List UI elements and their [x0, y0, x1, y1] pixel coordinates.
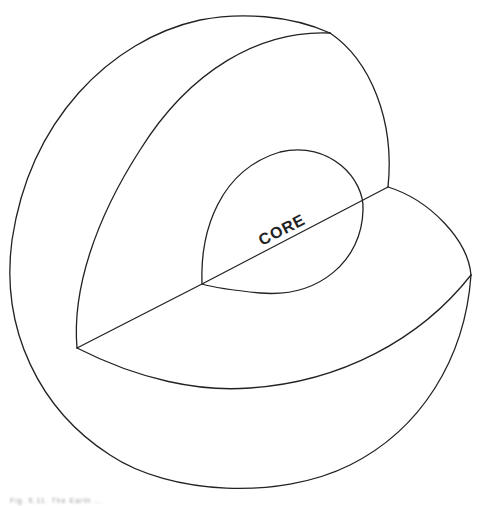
outer-arc-lower-right — [388, 187, 471, 275]
cut-radius-line — [77, 187, 388, 348]
outer-sphere-outline — [10, 16, 471, 489]
figure-caption: Fig. 5.11. The Earth ... — [10, 497, 103, 504]
mantle-cut-edge — [76, 33, 330, 348]
earth-cutaway-diagram: CORE — [0, 0, 482, 506]
mantle-bottom-edge — [77, 275, 471, 389]
